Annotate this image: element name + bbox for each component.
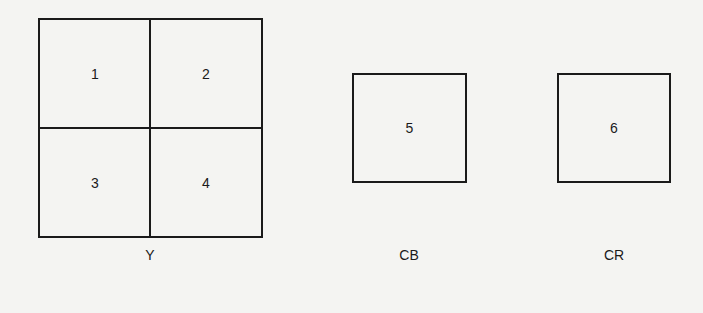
cb-label: CB: [399, 247, 418, 263]
y-block-1: 1: [40, 20, 150, 128]
y-block-4: 4: [151, 129, 261, 237]
y-label: Y: [145, 247, 154, 263]
cr-block-6: 6: [559, 75, 669, 181]
cr-block: 6: [557, 73, 671, 183]
y-block-2: 2: [151, 20, 261, 128]
y-block-3: 3: [40, 129, 150, 237]
cb-block: 5: [352, 73, 467, 183]
cr-label: CR: [604, 247, 624, 263]
cb-block-5: 5: [354, 75, 465, 181]
y-macroblock: 1 2 3 4: [38, 18, 263, 238]
